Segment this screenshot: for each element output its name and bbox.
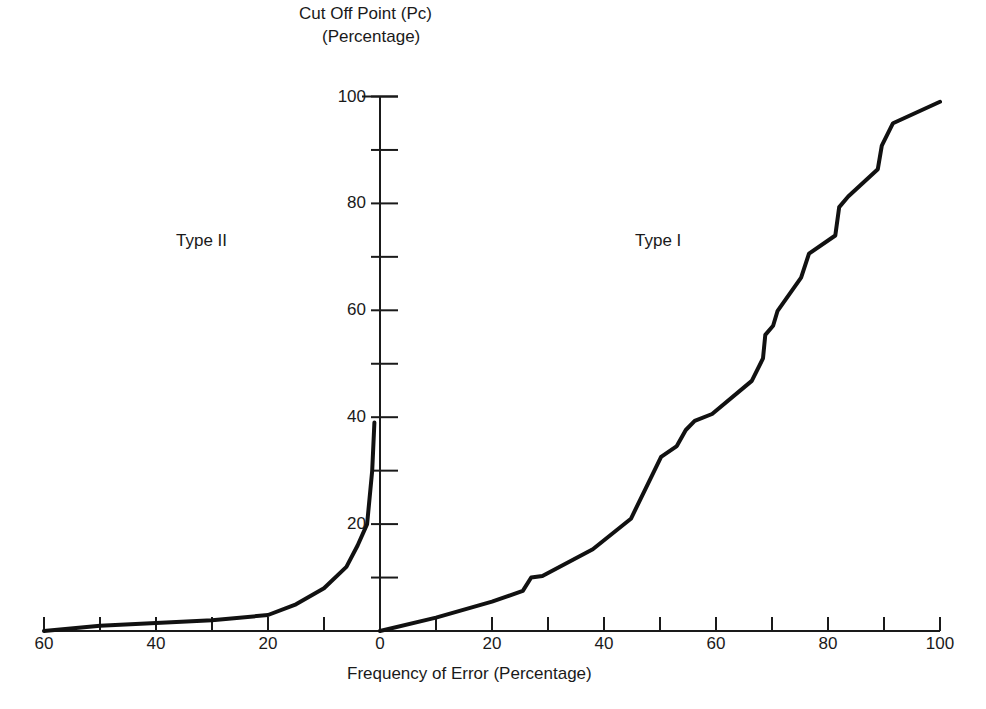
x-axis-title: Frequency of Error (Percentage) (347, 664, 592, 684)
x-tick-label: 0 (375, 634, 384, 654)
type-i-curve (380, 102, 940, 631)
y-tick-label: 100 (338, 87, 366, 107)
x-tick-label: 80 (819, 634, 838, 654)
chart-plot-area (0, 0, 986, 709)
y-tick-label: 80 (347, 193, 366, 213)
x-tick-label: 100 (926, 634, 954, 654)
annotation-type-ii: Type II (176, 231, 227, 251)
x-tick-label: 60 (707, 634, 726, 654)
x-tick-label: 60 (35, 634, 54, 654)
x-tick-label: 40 (147, 634, 166, 654)
y-tick-label: 60 (347, 300, 366, 320)
type-ii-curve (44, 423, 374, 632)
annotation-type-i: Type I (635, 231, 681, 251)
x-tick-label: 20 (483, 634, 502, 654)
x-tick-label: 20 (259, 634, 278, 654)
y-axis-title: Cut Off Point (Pc) (299, 4, 432, 24)
x-tick-label: 40 (595, 634, 614, 654)
y-tick-label: 40 (347, 407, 366, 427)
y-tick-label: 20 (347, 514, 366, 534)
y-axis-subtitle: (Percentage) (322, 27, 420, 47)
